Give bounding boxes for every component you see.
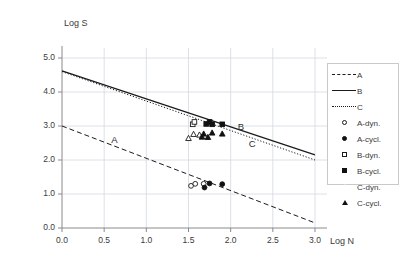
legend-key-square-open-icon [331,148,357,162]
legend-marker-sample [342,184,348,189]
legend-marker-wrap [342,136,347,141]
data-point-bcycl [210,122,215,127]
legend-item-label: B [357,87,362,96]
legend-item-label: A-dyn. [357,119,380,128]
legend-marker-sample [342,152,347,157]
legend-item-ccycl[interactable]: C-cycl. [331,195,396,211]
y-tick-label: 3.0 [29,120,55,130]
legend-key-triangle-fill-icon [331,196,357,210]
legend-item-a[interactable]: A [331,67,396,83]
legend-key-line-dotted-icon [331,100,357,114]
x-tick-label: 3.0 [300,235,330,245]
legend-item-c[interactable]: C [331,99,396,115]
legend-item-b[interactable]: B [331,83,396,99]
x-tick-label: 2.0 [216,235,246,245]
legend-item-adyn[interactable]: A-dyn. [331,115,396,131]
legend-key-line-dashed-icon [331,68,357,82]
data-point-acycl [207,181,212,186]
chart-legend: ABCA-dyn.A-cycl.B-dyn.B-cycl.C-dyn.C-cyc… [327,63,399,185]
legend-marker-wrap [342,120,347,125]
legend-item-label: C [357,103,363,112]
data-point-adyn [193,181,198,186]
data-point-bcycl [220,122,225,127]
data-point-acycl [202,185,207,190]
y-tick-label: 5.0 [29,52,55,62]
x-axis-title: Log N [330,236,354,246]
legend-item-label: A [357,71,362,80]
curve-label-a: A [111,134,117,145]
legend-key-square-fill-icon [331,164,357,178]
data-point-bdyn [192,120,197,125]
legend-item-bcycl[interactable]: B-cycl. [331,163,396,179]
chart-figure: Log S Log N 0.01.02.03.04.05.0 0.00.51.0… [0,0,405,264]
legend-item-label: B-dyn. [357,151,380,160]
legend-item-label: C-cycl. [357,199,381,208]
legend-marker-sample [342,200,348,205]
data-point-ccycl [201,131,207,136]
legend-marker-wrap [342,200,348,205]
curve-label-b: B [238,121,244,132]
legend-marker-sample [342,120,347,125]
legend-line-sample [332,106,356,107]
x-tick-label: 1.0 [131,235,161,245]
legend-marker-wrap [342,184,348,189]
legend-key-triangle-open-icon [331,180,357,194]
data-point-cdyn [191,131,197,136]
legend-key-circle-open-icon [331,116,357,130]
legend-item-label: C-dyn. [357,183,381,192]
y-tick-label: 1.0 [29,188,55,198]
legend-line-sample [332,90,356,91]
legend-marker-wrap [342,152,347,157]
x-tick-label: 2.5 [258,235,288,245]
legend-key-circle-fill-icon [331,132,357,146]
legend-item-label: A-cycl. [357,135,381,144]
curve-label-c: C [249,138,256,149]
legend-item-cdyn[interactable]: C-dyn. [331,179,396,195]
y-tick-label: 0.0 [29,222,55,232]
data-point-ccycl [209,130,215,135]
legend-item-label: B-cycl. [357,167,381,176]
y-tick-label: 2.0 [29,154,55,164]
legend-key-line-solid-icon [331,84,357,98]
y-axis-title: Log S [64,18,88,28]
legend-line-sample [332,74,356,75]
y-tick-label: 4.0 [29,86,55,96]
legend-item-acycl[interactable]: A-cycl. [331,131,396,147]
x-tick-label: 0.0 [47,235,77,245]
x-tick-label: 1.5 [174,235,204,245]
legend-marker-sample [342,168,347,173]
x-tick-label: 0.5 [89,235,119,245]
legend-marker-sample [342,136,347,141]
legend-item-bdyn[interactable]: B-dyn. [331,147,396,163]
data-point-ccycl [219,131,225,136]
legend-marker-wrap [342,168,347,173]
data-point-acycl [220,182,225,187]
